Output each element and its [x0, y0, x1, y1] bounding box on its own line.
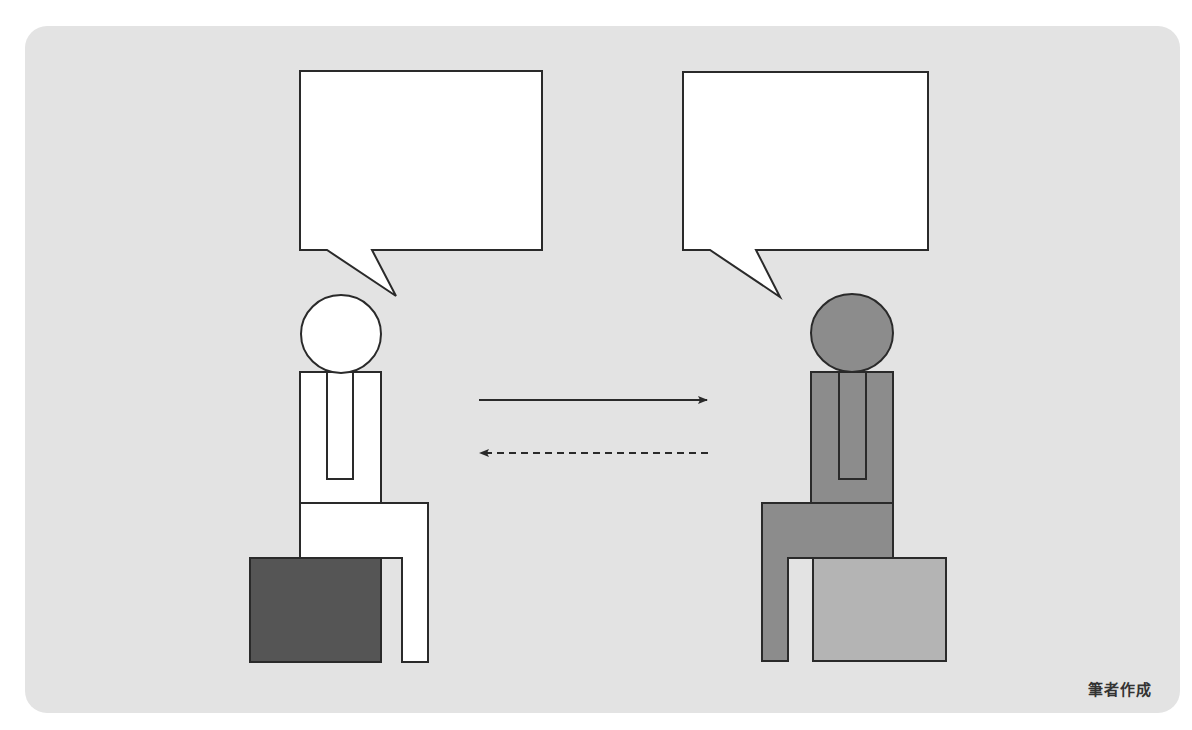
left-person-figure: [250, 295, 428, 662]
right-person-head: [811, 294, 893, 372]
right-person-figure: [762, 294, 946, 661]
credit-label: 筆者作成: [1088, 678, 1152, 699]
left-speech-bubble: [300, 71, 542, 296]
diagram-canvas: [0, 0, 1192, 730]
right-speech-bubble: [683, 72, 928, 297]
left-person-head: [301, 295, 381, 373]
right-seat-box: [813, 558, 946, 661]
